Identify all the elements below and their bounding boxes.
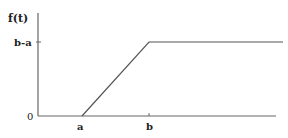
- y-tick-label-top: b-a: [14, 37, 32, 48]
- y-axis-label: f(t): [8, 12, 28, 25]
- piecewise-function-chart: f(t) b-a 0 a b: [0, 0, 288, 138]
- function-line: [82, 42, 283, 116]
- x-tick-label-a: a: [77, 121, 84, 132]
- x-tick-label-b: b: [146, 121, 153, 132]
- chart-canvas: f(t) b-a 0 a b: [0, 0, 288, 138]
- y-tick-label-zero: 0: [27, 111, 33, 122]
